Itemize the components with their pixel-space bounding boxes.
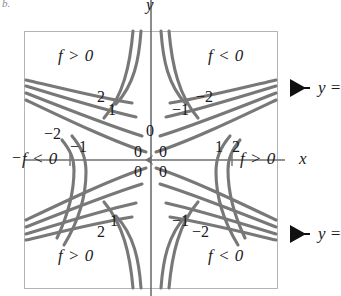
region-label-axis-right: f > 0 <box>240 150 276 167</box>
contour-label-zero: 0 <box>146 123 154 139</box>
contour-label: 1 <box>108 102 116 118</box>
contour-label: 1 <box>215 139 223 155</box>
figure-corner-mark: b. <box>2 0 10 9</box>
y-axis-label: y <box>146 0 154 13</box>
contour-label: −1 <box>70 139 87 155</box>
contour-label: 2 <box>97 224 105 240</box>
asymptote-label-top: y = <box>318 79 341 96</box>
contour-label: −2 <box>192 224 209 240</box>
contour-label: 1 <box>110 213 118 229</box>
asymptote-label-bottom: y = <box>318 225 341 242</box>
contour-label: −2 <box>196 89 213 105</box>
region-label-lower-left: f > 0 <box>58 247 94 264</box>
region-label-upper-left: f > 0 <box>58 47 94 64</box>
contour-label: 2 <box>232 139 240 155</box>
x-axis-label: x <box>299 150 307 167</box>
region-label-upper-right: f < 0 <box>208 47 244 64</box>
contour-label: −1 <box>172 102 189 118</box>
contour-label-zero: 0 <box>159 164 167 180</box>
contour-curve <box>104 202 133 288</box>
contour-label-zero: 0 <box>134 164 142 180</box>
contour-label: −2 <box>44 126 61 142</box>
contour-label: −1 <box>172 213 189 229</box>
region-label-axis-left: f < 0 <box>22 150 58 167</box>
contour-label: 2 <box>97 89 105 105</box>
left-sign-label: − <box>12 150 21 166</box>
contour-label-zero: 0 <box>134 144 142 160</box>
contour-label-zero: 0 <box>159 144 167 160</box>
region-label-lower-right: f < 0 <box>208 247 244 264</box>
